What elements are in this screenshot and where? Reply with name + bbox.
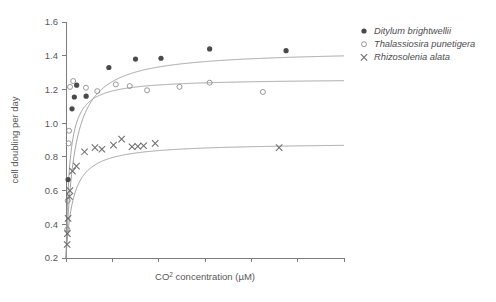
data-point-cross [110,142,116,148]
data-point-open-circle [66,141,71,146]
data-point-open-circle [71,79,76,84]
y-tick-label: 1.0 [45,118,58,129]
data-point-cross [129,144,135,150]
y-axis-title: cell doubling per day [9,96,20,183]
y-tick-label: 1.6 [45,16,58,27]
axes-group [66,22,344,258]
data-point-cross [276,144,282,150]
data-point-cross [81,149,87,155]
fit-curve [66,81,344,258]
data-point-filled-circle [158,56,163,61]
y-tick-label: 0.6 [45,185,58,196]
data-point-filled-circle [69,106,74,111]
data-point-filled-circle [207,46,212,51]
y-tick-label: 0.2 [45,252,58,263]
data-point-open-circle [260,89,265,94]
data-point-filled-circle [72,94,77,99]
legend-label: Rhizosolenia alata [374,52,450,62]
legend-marker-open-circle [362,42,367,47]
legend-label: Thalassiosira punetigera [374,39,475,49]
data-point-cross [135,143,141,149]
data-point-filled-circle [106,65,111,70]
chart-legend: Ditylum brightwelliiThalassiosira puneti… [361,26,475,62]
y-tick-label: 0.4 [45,219,58,230]
data-point-open-circle [95,89,100,94]
fit-curve [66,56,344,258]
chart-canvas: 0.20.40.60.81.01.21.41.6 Ditylum brightw… [0,0,496,302]
data-point-open-circle [68,84,73,89]
data-point-filled-circle [84,94,89,99]
legend-label: Ditylum brightwellii [374,26,452,36]
data-point-cross [99,146,105,152]
data-point-cross [140,143,146,149]
data-point-open-circle [177,84,182,89]
data-point-cross [152,140,158,146]
y-axis-ticks: 0.20.40.60.81.01.21.41.6 [45,16,66,263]
x-axis-ticks [66,258,344,262]
figure-container: 0.20.40.60.81.01.21.41.6 Ditylum brightw… [0,0,496,302]
y-tick-label: 1.2 [45,84,58,95]
data-point-open-circle [145,88,150,93]
data-point-filled-circle [133,56,138,61]
data-point-cross [92,144,98,150]
data-point-open-circle [83,85,88,90]
x-axis-title: CO2 concentration (µM) [155,271,255,282]
y-tick-label: 0.8 [45,151,58,162]
data-point-filled-circle [65,177,70,182]
legend-marker-cross [361,54,367,60]
y-tick-label: 1.4 [45,50,58,61]
data-point-cross [73,163,79,169]
data-point-open-circle [67,128,72,133]
fit-curve [66,145,344,258]
data-point-open-circle [113,82,118,87]
fit-curves [66,56,344,258]
data-point-cross [118,136,124,142]
data-point-filled-circle [283,48,288,53]
legend-marker-filled-circle [361,28,366,33]
